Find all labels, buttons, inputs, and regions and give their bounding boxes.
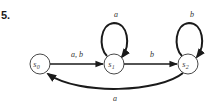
arrow-s2-s0 — [48, 73, 183, 89]
label-s2-loop: b — [190, 10, 194, 19]
label-s0-s1: a, b — [71, 50, 83, 59]
loop-arrow-s1 — [102, 23, 128, 57]
transition-s2-s0: a — [48, 73, 183, 103]
label-s1-s2: b — [150, 50, 154, 59]
label-s1-loop: a — [114, 10, 118, 19]
transition-s1-s2: b — [124, 50, 177, 64]
state-s1: s1 — [104, 54, 124, 74]
loop-arrow-s2 — [177, 23, 203, 57]
state-s2: s2 — [178, 54, 198, 74]
transition-s2-loop: b — [177, 10, 203, 57]
state-s0: s0 — [30, 54, 50, 74]
transition-s1-loop: a — [102, 10, 128, 57]
transition-s0-s1: a, b — [50, 50, 103, 64]
label-s2-s0: a — [113, 94, 117, 103]
state-diagram: a, b a b b a s0 s1 s2 — [0, 0, 218, 108]
